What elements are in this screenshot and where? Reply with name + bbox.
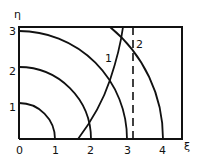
x-tick-4: 4 xyxy=(159,144,166,157)
y-tick-1: 1 xyxy=(9,101,16,114)
x-axis-label: ξ xyxy=(184,140,190,153)
quarter-circle-r3 xyxy=(19,31,127,139)
x-tick-3: 3 xyxy=(124,144,131,157)
curve-2-label: 2 xyxy=(136,38,143,51)
curve-1 xyxy=(78,27,123,139)
y-axis-label: η xyxy=(14,8,21,21)
diagram-canvas: η ξ 0 1 2 3 4 1 2 3 1 2 xyxy=(0,0,197,168)
y-tick-2: 2 xyxy=(9,65,16,78)
x-tick-2: 2 xyxy=(87,144,94,157)
frame-box xyxy=(19,27,182,139)
quarter-circle-r1 xyxy=(19,103,55,139)
y-tick-3: 3 xyxy=(9,25,16,38)
curve-1-label: 1 xyxy=(105,52,112,65)
x-tick-0: 0 xyxy=(16,144,23,157)
quarter-circle-r2 xyxy=(19,67,91,139)
x-tick-1: 1 xyxy=(52,144,59,157)
